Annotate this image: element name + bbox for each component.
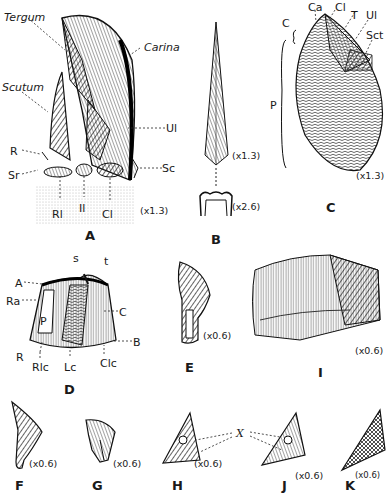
label-t-d: t xyxy=(104,256,108,267)
figure-letter-j: J xyxy=(282,478,287,493)
label-rl: Rl xyxy=(52,209,63,220)
scale-j: (x0.6) xyxy=(295,470,323,481)
figure-letter-a: A xyxy=(85,228,95,243)
scale-a: (x1.3) xyxy=(140,205,168,216)
label-r-a: R xyxy=(10,146,18,157)
label-c-d: C xyxy=(119,307,127,318)
label-r-d: R xyxy=(16,352,24,363)
figure-g-drawing xyxy=(86,420,115,462)
figure-letter-g: G xyxy=(92,478,103,493)
label-p-d: P xyxy=(40,316,47,327)
label-p-peduncle: P xyxy=(270,100,277,111)
scale-c: (x1.3) xyxy=(356,170,384,181)
figure-letter-i: I xyxy=(318,365,323,380)
figure-h-drawing xyxy=(163,413,200,463)
label-ul-c: Ul xyxy=(366,10,377,21)
label-sc: Sc xyxy=(162,163,175,174)
scale-g: (x0.6) xyxy=(113,458,141,469)
label-ra: Ra xyxy=(6,296,20,307)
scale-f: (x0.6) xyxy=(29,458,57,469)
label-s: s xyxy=(73,253,79,264)
label-cl-c: Cl xyxy=(335,2,346,13)
label-b-d: B xyxy=(133,337,141,348)
figure-letter-e: E xyxy=(185,360,194,375)
label-c-capitulum: C xyxy=(282,18,290,29)
figure-letter-d: D xyxy=(64,382,75,397)
figure-k-drawing xyxy=(342,410,385,470)
label-scutum: Scutum xyxy=(2,82,44,93)
figure-letter-f: F xyxy=(15,478,24,493)
figure-d-drawing xyxy=(22,274,132,358)
label-sct: Sct xyxy=(366,30,383,41)
figure-letter-h: H xyxy=(172,478,183,493)
scale-e: (x0.6) xyxy=(203,330,231,341)
label-clc: Clc xyxy=(100,358,117,369)
label-cl-a: Cl xyxy=(102,209,113,220)
scale-i: (x0.6) xyxy=(355,345,383,356)
label-tergum: Tergum xyxy=(4,12,45,23)
scale-h: (x0.6) xyxy=(194,458,222,469)
figure-i-drawing xyxy=(253,255,381,340)
label-ca: Ca xyxy=(308,2,322,13)
label-rlc: Rlc xyxy=(32,362,49,373)
label-sr: Sr xyxy=(8,170,20,181)
figure-letter-b: B xyxy=(211,232,221,247)
label-il: Il xyxy=(79,203,85,214)
label-a-d: A xyxy=(15,278,23,289)
label-x: X xyxy=(236,428,244,439)
label-lc: Lc xyxy=(64,362,76,373)
label-t: T xyxy=(351,10,358,21)
figure-letter-c: C xyxy=(326,200,336,215)
scale-b-1: (x1.3) xyxy=(232,150,260,161)
label-ul-a: Ul xyxy=(166,123,177,134)
plate-drawings xyxy=(0,0,392,494)
scale-k: (x0.6) xyxy=(355,470,380,480)
figure-b-drawing xyxy=(200,22,232,216)
scale-b-2: (x2.6) xyxy=(232,201,260,212)
label-carina: Carina xyxy=(144,42,180,53)
figure-letter-k: K xyxy=(345,478,355,493)
